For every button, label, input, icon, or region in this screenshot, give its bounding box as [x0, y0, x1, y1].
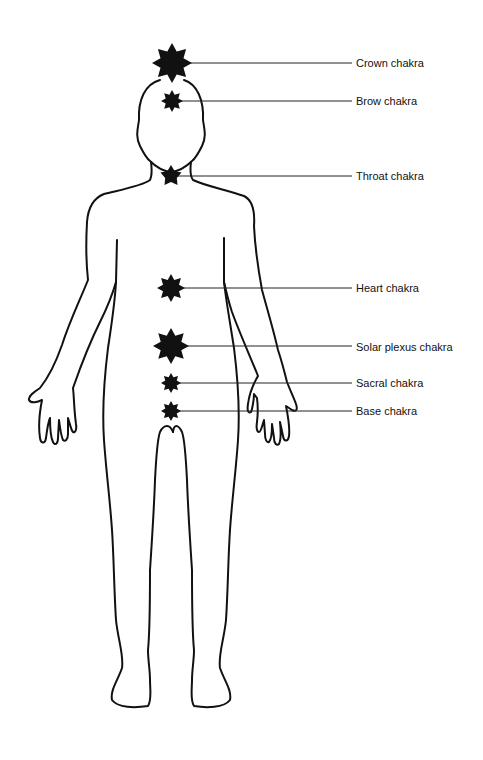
- label-throat: Throat chakra: [356, 170, 424, 183]
- base-chakra-star-icon: [161, 401, 181, 421]
- label-sacral: Sacral chakra: [356, 377, 423, 390]
- label-solar-plexus: Solar plexus chakra: [356, 341, 453, 354]
- heart-chakra-star-icon: [157, 274, 185, 302]
- throat-chakra-star-icon: [161, 165, 182, 185]
- leader-lines: [171, 63, 352, 411]
- brow-chakra-star-icon: [161, 90, 183, 112]
- label-brow: Brow chakra: [356, 95, 417, 108]
- chakra-markers: [152, 43, 192, 421]
- label-heart: Heart chakra: [356, 282, 419, 295]
- crown-chakra-star-icon: [152, 43, 192, 83]
- solar-plexus-chakra-star-icon: [153, 328, 189, 364]
- sacral-chakra-star-icon: [161, 373, 181, 393]
- right-body-outline: [190, 162, 296, 445]
- label-crown: Crown chakra: [356, 57, 424, 70]
- label-base: Base chakra: [356, 405, 417, 418]
- left-body-outline: [29, 162, 152, 444]
